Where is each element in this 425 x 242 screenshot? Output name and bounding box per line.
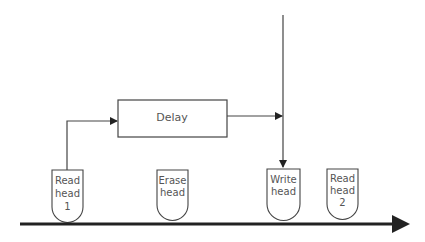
erase-head-line-1: Erase xyxy=(159,175,187,186)
write-head-line-2: head xyxy=(271,186,296,197)
read-head-2-line-1: Read xyxy=(330,173,355,184)
write-head: Write head xyxy=(267,169,300,221)
erase-head: Erase head xyxy=(157,170,188,221)
tape-delay-diagram: Delay Read head 1 Erase head Write head … xyxy=(0,0,425,242)
delay-label: Delay xyxy=(156,111,188,124)
read-head-1-line-3: 1 xyxy=(64,201,70,212)
read-head-2-line-2: head xyxy=(330,185,355,196)
read-head-1-line-1: Read xyxy=(55,175,80,186)
read1-to-delay-connector xyxy=(67,121,117,170)
read-head-1: Read head 1 xyxy=(52,170,83,222)
delay-box: Delay xyxy=(118,100,227,137)
read-head-2: Read head 2 xyxy=(327,169,358,220)
tape-arrow-icon xyxy=(392,215,410,233)
read-head-2-line-3: 2 xyxy=(339,197,345,208)
erase-head-line-2: head xyxy=(160,187,185,198)
read-head-1-line-2: head xyxy=(55,188,80,199)
write-head-line-1: Write xyxy=(270,174,296,185)
